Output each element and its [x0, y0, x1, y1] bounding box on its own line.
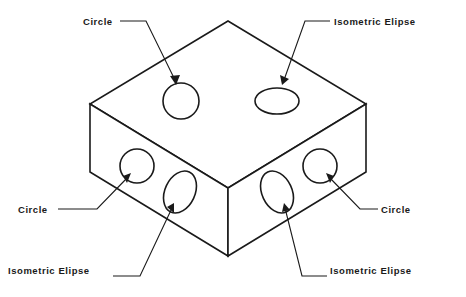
callout-label-ellipse-bottom-right: Isometric Elipse [330, 266, 412, 276]
figure-canvas: Circle Isometric Elipse Circle Circle Is… [0, 0, 466, 297]
callout-label-ellipse-top-right: Isometric Elipse [334, 17, 416, 27]
isometric-block-drawing [0, 0, 466, 297]
block-solid [90, 21, 366, 256]
callout-label-circle-mid-right: Circle [381, 205, 411, 215]
callout-label-circle-mid-left: Circle [18, 205, 48, 215]
callout-label-circle-top-left: Circle [83, 17, 113, 27]
leader-ellipse-bottom-left [113, 208, 172, 276]
callout-label-ellipse-bottom-left: Isometric Elipse [8, 266, 90, 276]
